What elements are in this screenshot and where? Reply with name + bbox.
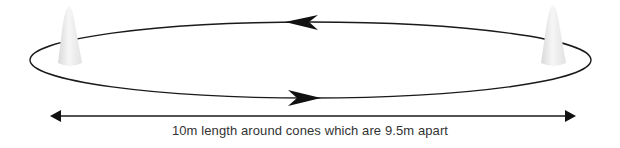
track-loop [30, 22, 591, 98]
cone-left-icon [58, 6, 82, 66]
dimension-arrow-left-icon [50, 110, 61, 122]
dimension-arrow-right-icon [565, 110, 576, 122]
cone-right-icon [541, 5, 566, 66]
dimension-caption: 10m length around cones which are 9.5m a… [0, 123, 620, 138]
